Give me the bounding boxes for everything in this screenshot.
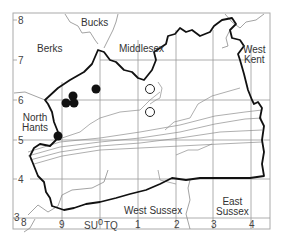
x-axis-label: 9: [59, 220, 65, 230]
record-dots-filled: [54, 85, 101, 141]
record-dots-open: [146, 85, 155, 117]
y-axis-label: 4: [18, 175, 24, 185]
region-label-bucks: Bucks: [81, 18, 108, 28]
x-axis-label: TQ: [104, 221, 118, 231]
x-axis-label: 8: [21, 218, 27, 228]
region-label-middlesex: Middlesex: [119, 44, 164, 54]
region-label-berks: Berks: [37, 44, 63, 54]
region-label-west-kent: West Kent: [243, 45, 266, 65]
x-axis-label: 2: [174, 220, 180, 230]
x-axis-label: 0: [98, 217, 103, 227]
region-label-east-sussex: East Sussex: [216, 197, 249, 217]
y-axis-label: 7: [18, 56, 24, 66]
region-label-line: Hants: [22, 123, 48, 133]
contour-lines: [28, 82, 262, 184]
x-axis-label: 1: [135, 220, 141, 230]
y-axis-label: 5: [18, 136, 24, 146]
x-axis-label: 4: [249, 220, 255, 230]
y-axis-label: 6: [18, 96, 24, 106]
region-label-north-hants: North Hants: [22, 113, 48, 133]
x-axis-label: SU: [84, 221, 98, 231]
y-axis-label: 8: [18, 16, 24, 26]
region-label-west-sussex: West Sussex: [124, 206, 182, 216]
y-axis-label: 3: [14, 213, 20, 223]
region-label-line: Sussex: [216, 207, 249, 217]
region-label-line: Kent: [243, 55, 266, 65]
x-axis-label: 3: [211, 220, 217, 230]
